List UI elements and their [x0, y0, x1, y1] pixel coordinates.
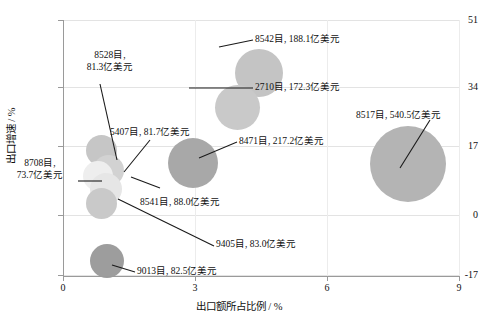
y-tick-mark-34	[58, 87, 63, 88]
gridline-y-0	[63, 215, 460, 216]
point-label-9013: 9013目, 82.5亿美元	[137, 266, 217, 278]
x-tick-label-0: 0	[43, 283, 83, 293]
bubble-2710[interactable]	[215, 85, 260, 130]
x-axis-line	[63, 276, 460, 277]
bubble-9405[interactable]	[86, 188, 117, 219]
point-label-8708-line2: 73.7亿美元	[17, 170, 64, 180]
y-axis-line	[63, 20, 64, 276]
point-label-8471: 8471目, 217.2亿美元	[239, 136, 324, 148]
bubble-9013[interactable]	[90, 244, 124, 278]
x-tick-label-9: 9	[439, 283, 479, 293]
point-label-2710: 2710目, 172.3亿美元	[255, 82, 340, 94]
y-tick-label-17: 17	[426, 141, 478, 151]
point-label-8708-line1: 8708目,	[24, 158, 55, 168]
y-tick-mark-0	[58, 215, 63, 216]
point-label-8517: 8517目, 540.5亿美元	[356, 110, 441, 122]
point-label-8528: 8528目, 81.3亿美元	[72, 50, 148, 73]
point-label-8542: 8542目, 188.1亿美元	[255, 34, 340, 46]
gridline-y-51	[63, 20, 460, 21]
y-tick-label-34: 34	[426, 82, 478, 92]
y-tick-mark-51	[58, 20, 63, 21]
bubble-8471[interactable]	[168, 138, 218, 188]
point-label-8528-line2: 81.3亿美元	[87, 62, 134, 72]
point-label-8541: 8541目, 88.0亿美元	[140, 197, 220, 209]
y-tick-label-51: 51	[426, 15, 478, 25]
x-axis-title: 出口额所占比例 / %	[0, 301, 478, 313]
point-label-9405: 9405目, 83.0亿美元	[216, 239, 296, 251]
x-tick-mark-6	[327, 276, 328, 281]
bubble-8517[interactable]	[370, 126, 446, 202]
y-tick-label-0: 0	[426, 210, 478, 220]
y-tick-label-neg17: -17	[426, 270, 478, 280]
point-label-8528-line1: 8528目,	[94, 50, 125, 60]
gridline-x-6	[327, 20, 328, 276]
x-tick-label-6: 6	[307, 283, 347, 293]
point-label-8708: 8708目, 73.7亿美元	[2, 158, 78, 181]
x-tick-mark-0	[63, 276, 64, 281]
x-tick-mark-9	[459, 276, 460, 281]
x-tick-label-3: 3	[175, 283, 215, 293]
point-label-5407: 5407目, 81.7亿美元	[110, 127, 190, 139]
y-tick-mark-17	[58, 146, 63, 147]
